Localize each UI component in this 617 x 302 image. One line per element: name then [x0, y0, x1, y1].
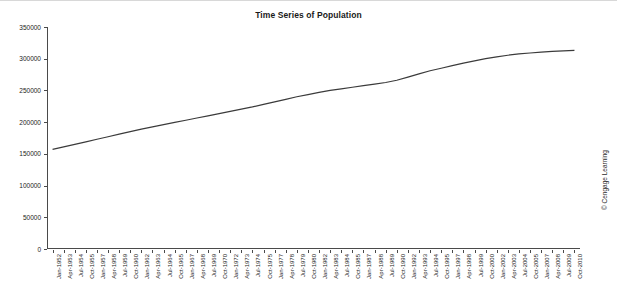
x-axis-tick-mark: [308, 250, 309, 253]
x-axis-tick-label: Oct-1980: [311, 254, 317, 279]
x-axis-tick-label: Oct-1970: [222, 254, 228, 279]
x-axis-tick-label: Jul-1969: [211, 254, 217, 277]
chart-figure: Time Series of Population 05000010000015…: [0, 0, 617, 302]
x-axis-tick-mark: [363, 250, 364, 253]
x-axis-tick-label: Apr-2008: [555, 254, 561, 279]
x-axis-tick-label: Jul-2009: [566, 254, 572, 277]
credit-text: © Cengage Learning: [601, 150, 608, 210]
x-axis-tick-mark: [486, 250, 487, 253]
x-axis-tick-mark: [452, 250, 453, 253]
x-axis-tick-mark: [164, 250, 165, 253]
y-axis-tick-label: 300000: [0, 55, 41, 62]
x-axis-tick-mark: [230, 250, 231, 253]
x-axis-tick-mark: [219, 250, 220, 253]
x-axis-tick-label: Oct-2010: [577, 254, 583, 279]
x-axis-tick-label: Jan-1997: [455, 254, 461, 279]
x-axis-tick-mark: [352, 250, 353, 253]
x-axis-tick-label: Jul-2004: [522, 254, 528, 277]
x-axis-tick-mark: [375, 250, 376, 253]
x-axis-tick-label: Oct-1985: [355, 254, 361, 279]
x-axis-tick-mark: [97, 250, 98, 253]
x-axis-tick-mark: [241, 250, 242, 253]
x-axis-tick-label: Jul-1994: [433, 254, 439, 277]
y-axis-tick-label: 50000: [0, 214, 41, 221]
x-axis-tick-mark: [297, 250, 298, 253]
x-axis-tick-mark: [197, 250, 198, 253]
x-axis-tick-label: Oct-1990: [400, 254, 406, 279]
x-axis-tick-label: Oct-2005: [533, 254, 539, 279]
x-axis-tick-label: Jul-1974: [255, 254, 261, 277]
x-axis-tick-label: Apr-1963: [155, 254, 161, 279]
x-axis-tick-mark: [252, 250, 253, 253]
x-axis-tick-label: Jul-1999: [478, 254, 484, 277]
y-axis-tick-label: 100000: [0, 182, 41, 189]
x-axis-tick-mark: [419, 250, 420, 253]
x-axis-tick-label: Jan-1967: [189, 254, 195, 279]
x-axis-tick-mark: [530, 250, 531, 253]
x-axis-tick-mark: [130, 250, 131, 253]
x-axis-tick-label: Oct-1955: [89, 254, 95, 279]
x-axis-tick-mark: [64, 250, 65, 253]
x-axis-tick-label: Apr-1968: [200, 254, 206, 279]
x-axis-tick-mark: [541, 250, 542, 253]
x-axis-tick-mark: [408, 250, 409, 253]
x-axis-tick-label: Jan-1987: [366, 254, 372, 279]
x-axis-tick-mark: [86, 250, 87, 253]
x-axis-tick-mark: [330, 250, 331, 253]
x-axis-tick-label: Jan-2007: [544, 254, 550, 279]
x-axis-tick-label: Oct-1995: [444, 254, 450, 279]
x-axis-tick-label: Apr-2003: [511, 254, 517, 279]
x-axis-tick-label: Jan-1952: [56, 254, 62, 279]
x-axis-tick-mark: [108, 250, 109, 253]
x-axis-tick-label: Jan-1992: [411, 254, 417, 279]
x-axis-tick-label: Oct-1965: [178, 254, 184, 279]
x-axis-tick-label: Jan-1972: [233, 254, 239, 279]
x-axis-tick-label: Apr-1958: [111, 254, 117, 279]
x-axis-tick-mark: [264, 250, 265, 253]
x-axis-tick-mark: [175, 250, 176, 253]
y-axis-tick-label: 0: [0, 246, 41, 253]
x-axis-tick-label: Jan-1957: [100, 254, 106, 279]
x-axis-tick-label: Jul-1964: [167, 254, 173, 277]
x-axis-tick-mark: [141, 250, 142, 253]
y-axis: 0500001000001500002000002500003000003500…: [0, 27, 47, 257]
x-axis-tick-mark: [75, 250, 76, 253]
x-axis-tick-label: Oct-2000: [489, 254, 495, 279]
chart-title: Time Series of Population: [0, 10, 617, 20]
x-axis-tick-mark: [508, 250, 509, 253]
x-axis-tick-label: Apr-1978: [289, 254, 295, 279]
x-axis-tick-label: Jan-2002: [500, 254, 506, 279]
x-axis-tick-mark: [386, 250, 387, 253]
credit-note: © Cengage Learning: [601, 150, 613, 290]
x-axis-tick-mark: [275, 250, 276, 253]
x-axis-tick-label: Oct-1975: [267, 254, 273, 279]
x-axis-tick-label: Apr-1983: [333, 254, 339, 279]
plot-area: [47, 27, 580, 249]
x-axis-tick-label: Apr-1988: [378, 254, 384, 279]
x-axis-tick-label: Jan-1977: [278, 254, 284, 279]
x-axis-tick-mark: [519, 250, 520, 253]
x-axis-tick-label: Jul-1989: [389, 254, 395, 277]
x-axis-tick-label: Jan-1982: [322, 254, 328, 279]
x-axis-tick-label: Jul-1959: [122, 254, 128, 277]
y-axis-tick-label: 200000: [0, 119, 41, 126]
x-axis-tick-mark: [286, 250, 287, 253]
x-axis-tick-label: Jul-1979: [300, 254, 306, 277]
y-axis-tick-label: 350000: [0, 24, 41, 31]
x-axis-tick-label: Jan-1962: [144, 254, 150, 279]
x-axis-tick-mark: [152, 250, 153, 253]
x-axis-tick-mark: [341, 250, 342, 253]
x-axis-tick-label: Apr-1953: [67, 254, 73, 279]
x-axis-tick-label: Oct-1960: [133, 254, 139, 279]
x-axis-tick-mark: [53, 250, 54, 253]
y-axis-tick-label: 150000: [0, 150, 41, 157]
x-axis-tick-label: Jul-1984: [344, 254, 350, 277]
x-axis-tick-label: Apr-1973: [244, 254, 250, 279]
x-axis: Jan-1952Apr-1953Jul-1954Oct-1955Jan-1957…: [47, 250, 580, 302]
x-axis-tick-label: Jul-1954: [78, 254, 84, 277]
population-line-series: [47, 27, 580, 249]
figure-top-divider: [0, 0, 617, 1]
x-axis-tick-mark: [208, 250, 209, 253]
x-axis-tick-mark: [430, 250, 431, 253]
x-axis-tick-mark: [475, 250, 476, 253]
